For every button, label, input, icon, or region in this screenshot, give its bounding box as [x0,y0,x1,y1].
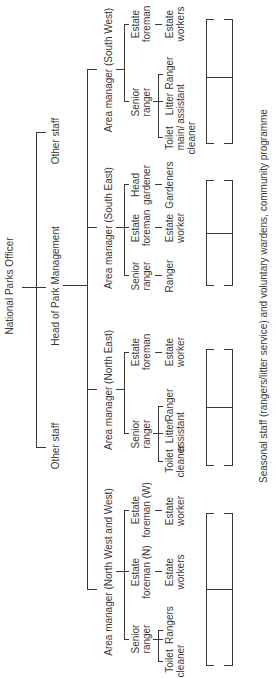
connector [116,389,124,390]
connector [124,184,129,185]
connector [124,433,129,434]
connector [206,180,214,181]
connector [224,180,232,181]
connector [206,665,214,666]
connector [22,287,36,288]
connector [206,513,214,514]
node-area-manager-nw-w: Area manager (North West and West) [103,482,114,662]
node-head-gardener: Head gardener [130,161,152,209]
node-area-manager-sw: Area manager (South West) [103,0,114,140]
connector [124,275,129,276]
node-national-parks-officer: National Parks Officer [4,226,15,346]
connector [158,630,163,631]
connector [124,639,129,640]
node-senior-ranger: Senior ranger [130,259,152,293]
connector [206,233,232,234]
connector [158,630,159,662]
node-gardeners: Gardeners [164,159,175,211]
node-other-staff-right: Other staff [50,111,61,171]
connector [124,184,125,276]
connector [232,349,233,466]
node-estate-worker: Estate worker [164,487,186,535]
connector [36,132,46,133]
connector [124,510,125,640]
connector [232,19,233,144]
connector [206,349,214,350]
node-ranger: Ranger [164,388,175,422]
footer-seasonal-staff: Seasonal staff (rangers/litter service) … [258,56,269,536]
connector [124,352,129,353]
node-estate-foreman-w: Estate foreman (W) [130,478,152,542]
connector [158,74,163,75]
connector [87,69,88,590]
connector [155,227,162,228]
connector [116,227,124,228]
connector [116,69,124,70]
connector [206,465,214,466]
node-estate-workers: Estate workers [164,548,186,596]
connector [124,510,129,511]
connector [224,513,232,514]
connector [206,77,232,78]
connector [158,74,159,138]
connector [36,447,46,448]
node-rangers: Rangers [164,610,175,644]
node-estate-workers: Estate workers [164,0,186,49]
connector [224,349,232,350]
connector [224,143,232,144]
connector [36,287,46,288]
connector [224,465,232,466]
connector [124,24,129,25]
node-ranger: Ranger [164,56,175,90]
connector [158,661,163,662]
connector [224,285,232,286]
node-senior-ranger: Senior ranger [130,85,152,119]
connector [124,101,129,102]
node-senior-ranger: Senior ranger [130,417,152,451]
connector [87,227,97,228]
connector [206,143,214,144]
connector [232,513,233,666]
node-ranger: Ranger [164,259,175,293]
node-area-manager-se: Area manager (South East) [103,158,114,298]
connector [87,389,97,390]
connector [224,19,232,20]
node-head-of-park-management: Head of Park Management [50,216,61,356]
connector [124,352,125,434]
connector [206,407,232,408]
node-senior-ranger: Senior ranger [130,622,152,656]
connector [87,589,97,590]
connector [206,589,232,590]
connector [63,285,87,286]
connector [158,406,163,407]
node-estate-worker: Estate worker [164,328,186,376]
node-area-manager-ne: Area manager (North East) [103,320,114,460]
node-estate-foreman: Estate foreman [130,0,152,48]
connector [116,571,124,572]
node-toilet-cleaner: Toilet cleaner [164,644,186,678]
connector [124,571,129,572]
connector [155,510,162,511]
node-estate-foreman: Estate foreman [130,328,152,376]
connector [124,227,129,228]
node-estate-foreman: Estate foreman [130,204,152,252]
connector [158,137,163,138]
node-estate-foreman-n: Estate foreman (N) [130,540,152,604]
connector [158,406,159,462]
connector [206,285,214,286]
connector [224,665,232,666]
node-other-staff-left: Other staff [50,416,61,476]
connector [206,19,207,144]
connector [155,24,162,25]
connector [158,461,163,462]
connector [206,19,214,20]
connector [155,184,162,185]
connector [155,352,162,353]
connector [124,24,125,102]
connector [87,69,97,70]
connector [155,275,162,276]
connector [155,571,162,572]
node-estate-worker: Estate worker [164,204,186,252]
connector [232,180,233,286]
